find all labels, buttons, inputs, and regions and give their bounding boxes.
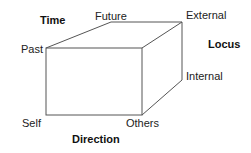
- axis-label-locus: Locus: [208, 38, 240, 50]
- cube-right-face: [142, 22, 182, 115]
- cube-front-face: [46, 48, 142, 115]
- vertex-label-future: Future: [95, 10, 127, 22]
- vertex-label-external: External: [186, 9, 226, 21]
- vertex-label-past: Past: [21, 43, 43, 55]
- axis-label-time: Time: [40, 14, 65, 26]
- vertex-label-self: Self: [22, 117, 41, 129]
- vertex-label-others: Others: [126, 117, 159, 129]
- vertex-label-internal: Internal: [186, 70, 223, 82]
- axis-label-direction: Direction: [72, 133, 120, 145]
- cube-top-face: [46, 22, 182, 48]
